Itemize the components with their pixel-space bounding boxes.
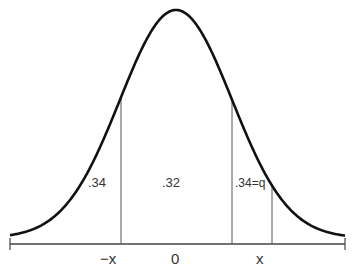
bell-curve [10, 10, 345, 236]
region-label-center: .32 [162, 175, 180, 190]
region-label-left: .34 [88, 175, 106, 190]
normal-curve-diagram: .34 .32 .34=q −x 0 x [0, 0, 352, 272]
axis-label-zero: 0 [171, 250, 179, 267]
region-label-right: .34=q [235, 176, 265, 190]
axis-label-neg-x: −x [100, 250, 117, 267]
axis-label-pos-x: x [256, 250, 264, 267]
